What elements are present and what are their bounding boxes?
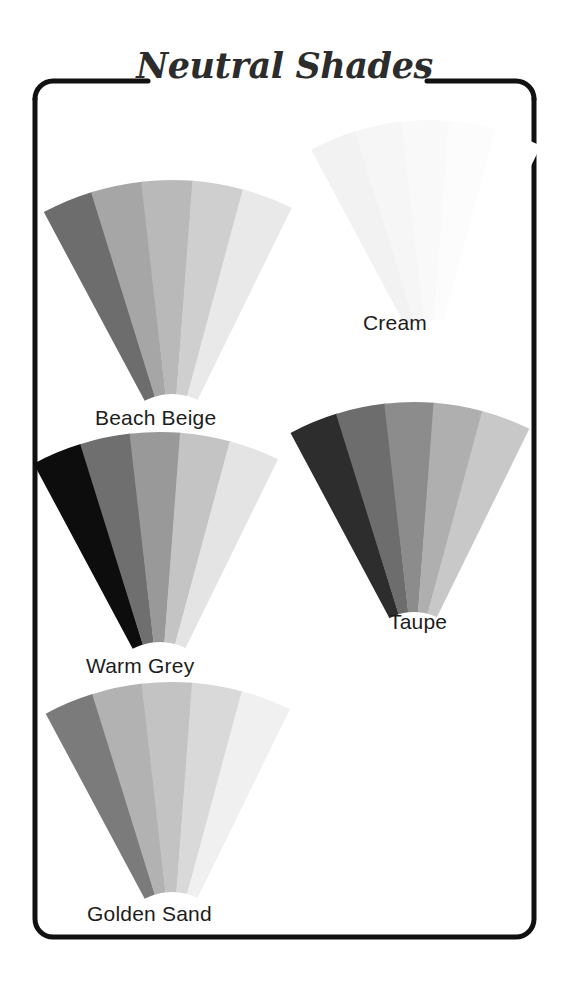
- page-title: Neutral Shades: [0, 48, 569, 83]
- fan-label-warm-grey: Warm Grey: [86, 654, 194, 678]
- fan-label-taupe: Taupe: [389, 610, 447, 634]
- fan-label-golden-sand: Golden Sand: [87, 902, 212, 926]
- color-card-page: Neutral Shades Beach BeigeCreamWarm Grey…: [0, 0, 569, 994]
- fan-golden-sand: [0, 682, 440, 994]
- fan-strips-golden-sand: [0, 682, 440, 994]
- fan-label-beach-beige: Beach Beige: [95, 406, 216, 430]
- fan-label-cream: Cream: [363, 311, 427, 335]
